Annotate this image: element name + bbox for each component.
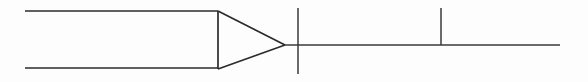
upper-taper-line xyxy=(218,11,285,45)
diagram-canvas xyxy=(0,0,588,82)
lower-taper-line xyxy=(218,45,285,69)
technical-line-drawing xyxy=(0,0,588,82)
